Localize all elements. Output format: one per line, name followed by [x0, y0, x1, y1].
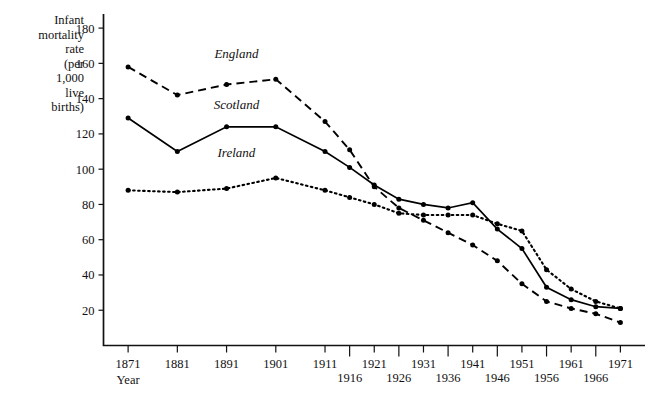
- data-point: [446, 213, 451, 218]
- data-point: [544, 267, 549, 272]
- x-axis-label: Year: [117, 373, 141, 387]
- x-tick-label-upper: 1921: [362, 357, 387, 371]
- y-axis-ticks: 20406080100120140160180: [76, 22, 104, 318]
- x-tick-label-lower: 1916: [337, 371, 362, 385]
- data-point: [421, 213, 426, 218]
- data-point: [544, 299, 549, 304]
- data-point: [495, 258, 500, 263]
- chart-figure: Infantmortalityrate(per1,000livebirths) …: [0, 0, 651, 406]
- y-axis-label-line: rate: [65, 42, 84, 56]
- y-tick-label: 180: [76, 22, 95, 36]
- data-point: [273, 175, 278, 180]
- data-point: [519, 281, 524, 286]
- data-point: [618, 306, 623, 311]
- series-label-england: England: [213, 46, 259, 61]
- x-tick-label-upper: 1951: [509, 357, 534, 371]
- data-point: [396, 197, 401, 202]
- x-tick-label-lower: 1926: [386, 371, 411, 385]
- infant-mortality-line-chart: Infantmortalityrate(per1,000livebirths) …: [0, 0, 651, 406]
- data-point: [175, 190, 180, 195]
- data-point: [470, 213, 475, 218]
- series-line-england: [128, 67, 620, 323]
- y-tick-label: 20: [82, 304, 95, 318]
- data-point: [470, 242, 475, 247]
- y-tick-label: 100: [76, 163, 95, 177]
- data-point: [495, 227, 500, 232]
- data-point: [593, 304, 598, 309]
- x-tick-label-lower: 1936: [436, 371, 461, 385]
- x-tick-label-upper: 1911: [313, 357, 338, 371]
- data-point: [273, 124, 278, 129]
- x-tick-label-upper: 1971: [608, 357, 633, 371]
- x-tick-label-upper: 1961: [559, 357, 584, 371]
- series-label-ireland: Ireland: [217, 145, 256, 160]
- data-point: [396, 205, 401, 210]
- x-tick-label-upper: 1901: [263, 357, 288, 371]
- data-point: [519, 246, 524, 251]
- y-tick-label: 160: [76, 57, 95, 71]
- data-point: [126, 64, 131, 69]
- data-point: [347, 195, 352, 200]
- data-point: [544, 285, 549, 290]
- data-point: [273, 77, 278, 82]
- data-point: [372, 183, 377, 188]
- x-tick-label-upper: 1881: [165, 357, 190, 371]
- data-point: [569, 297, 574, 302]
- data-point: [126, 116, 131, 121]
- x-tick-label-upper: 1871: [116, 357, 141, 371]
- x-axis-ticks: 1871188118911901191119211931194119511961…: [116, 346, 633, 385]
- data-point: [175, 93, 180, 98]
- x-tick-label-lower: 1946: [485, 371, 510, 385]
- series-lines: [126, 64, 623, 325]
- data-point: [421, 202, 426, 207]
- data-point: [446, 205, 451, 210]
- data-point: [372, 202, 377, 207]
- x-tick-label-lower: 1966: [583, 371, 608, 385]
- x-tick-label-upper: 1941: [460, 357, 485, 371]
- data-point: [519, 228, 524, 233]
- y-tick-label: 120: [76, 127, 95, 141]
- data-point: [347, 147, 352, 152]
- data-point: [323, 188, 328, 193]
- data-point: [569, 306, 574, 311]
- data-point: [323, 149, 328, 154]
- data-point: [593, 299, 598, 304]
- data-point: [569, 287, 574, 292]
- x-tick-label-upper: 1891: [214, 357, 239, 371]
- data-point: [446, 230, 451, 235]
- y-tick-label: 140: [76, 92, 95, 106]
- data-point: [593, 311, 598, 316]
- data-point: [175, 149, 180, 154]
- y-tick-label: 80: [82, 198, 95, 212]
- y-axis-label-line: 1,000: [56, 71, 84, 85]
- series-line-scotland: [128, 118, 620, 308]
- data-point: [495, 221, 500, 226]
- data-point: [347, 165, 352, 170]
- series-labels: EnglandScotlandIreland: [213, 46, 259, 160]
- y-tick-label: 40: [82, 268, 95, 282]
- x-tick-label-lower: 1956: [534, 371, 559, 385]
- data-point: [470, 200, 475, 205]
- data-point: [224, 124, 229, 129]
- series-label-scotland: Scotland: [214, 97, 260, 112]
- data-point: [126, 188, 131, 193]
- x-tick-label-upper: 1931: [411, 357, 436, 371]
- data-point: [421, 218, 426, 223]
- data-point: [396, 211, 401, 216]
- data-point: [618, 320, 623, 325]
- data-point: [224, 82, 229, 87]
- data-point: [323, 119, 328, 124]
- y-tick-label: 60: [82, 233, 95, 247]
- data-point: [224, 186, 229, 191]
